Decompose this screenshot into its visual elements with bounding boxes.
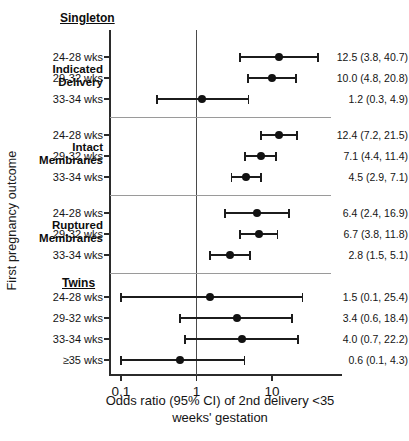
y-axis-category-label: 24-28 wks <box>53 291 103 303</box>
y-axis-tick <box>104 359 109 360</box>
odds-ratio-marker <box>226 251 234 259</box>
x-axis-line <box>109 374 342 376</box>
odds-ratio-marker <box>253 209 261 217</box>
group-header-line-2: Membranes <box>39 154 103 167</box>
odds-ratio-value-label: 6.7 (3.8, 11.8) <box>343 228 408 240</box>
y-axis-tick <box>104 134 109 135</box>
x-axis-tick <box>196 375 197 381</box>
ci-cap-upper <box>288 209 290 218</box>
ci-cap-lower <box>184 335 186 344</box>
section-header: Twins <box>62 276 95 290</box>
x-axis-tick <box>120 375 121 381</box>
odds-ratio-marker <box>275 53 283 61</box>
y-axis-tick <box>104 98 109 99</box>
y-axis-category-label: ≥35 wks <box>63 354 103 366</box>
odds-ratio-marker <box>268 74 276 82</box>
ci-cap-upper <box>302 293 304 302</box>
group-header-line-2: Delivery <box>53 76 103 89</box>
ci-cap-upper <box>260 173 262 182</box>
ci-cap-lower <box>247 74 249 83</box>
y-axis-tick <box>104 176 109 177</box>
reference-line <box>196 30 198 375</box>
y-axis-tick <box>104 155 109 156</box>
y-axis-tick <box>104 233 109 234</box>
group-header: IntactMembranes <box>39 141 103 166</box>
odds-ratio-marker <box>255 230 263 238</box>
ci-cap-lower <box>244 152 246 161</box>
odds-ratio-value-label: 12.5 (3.8, 40.7) <box>337 51 408 63</box>
y-axis-tick <box>104 56 109 57</box>
value-label-column: 12.5 (3.8, 40.7)10.0 (4.8, 20.8)1.2 (0.3… <box>342 30 409 375</box>
group-header-line-1: Ruptured <box>39 219 103 232</box>
group-separator <box>110 195 331 196</box>
odds-ratio-marker <box>198 95 206 103</box>
odds-ratio-value-label: 4.0 (0.7, 22.2) <box>343 333 408 345</box>
group-header-line-2: Membranes <box>39 232 103 245</box>
y-axis-tick <box>104 338 109 339</box>
group-header-line-1: Intact <box>39 141 103 154</box>
group-separator <box>110 117 331 118</box>
odds-ratio-marker <box>176 356 184 364</box>
ci-cap-lower <box>239 53 241 62</box>
odds-ratio-value-label: 12.4 (7.2, 21.5) <box>337 129 408 141</box>
group-header-line-1: Indicated <box>53 63 103 76</box>
y-axis-category-label: 24-28 wks <box>53 129 103 141</box>
plot-area: 0.1110 <box>109 30 342 375</box>
ci-cap-upper <box>244 356 246 365</box>
odds-ratio-marker <box>233 314 241 322</box>
odds-ratio-value-label: 2.8 (1.5, 5.1) <box>348 249 408 261</box>
ci-cap-lower <box>209 251 211 260</box>
ci-cap-lower <box>120 356 122 365</box>
x-axis-caption-line-1: Odds ratio (95% CI) of 2nd delivery <35 <box>60 392 380 409</box>
y-axis-tick <box>104 212 109 213</box>
ci-cap-upper <box>291 314 293 323</box>
forest-plot-figure: First pregnancy outcome 24-28 wks29-32 w… <box>0 0 409 441</box>
ci-cap-lower <box>260 131 262 140</box>
x-axis-caption-line-2: weeks' gestation <box>60 409 380 426</box>
ci-cap-upper <box>297 335 299 344</box>
group-header: IndicatedDelivery <box>53 63 103 88</box>
odds-ratio-value-label: 4.5 (2.9, 7.1) <box>348 171 408 183</box>
odds-ratio-value-label: 0.6 (0.1, 4.3) <box>348 354 408 366</box>
ci-cap-upper <box>296 131 298 140</box>
ci-cap-upper <box>248 95 250 104</box>
odds-ratio-value-label: 10.0 (4.8, 20.8) <box>337 72 408 84</box>
odds-ratio-value-label: 7.1 (4.4, 11.4) <box>343 150 408 162</box>
section-header: Singleton <box>60 11 115 25</box>
y-axis-category-label: 29-32 wks <box>53 312 103 324</box>
group-header: RupturedMembranes <box>39 219 103 244</box>
odds-ratio-marker <box>206 293 214 301</box>
ci-cap-upper <box>277 230 279 239</box>
ci-cap-lower <box>239 230 241 239</box>
y-axis-category-label: 33-34 wks <box>53 93 103 105</box>
group-separator <box>110 273 331 274</box>
odds-ratio-value-label: 1.2 (0.3, 4.9) <box>348 93 408 105</box>
ci-cap-upper <box>295 74 297 83</box>
row-label-column: 24-28 wks29-32 wks33-34 wks24-28 wks29-3… <box>0 30 103 375</box>
y-axis-category-label: 33-34 wks <box>53 171 103 183</box>
odds-ratio-marker <box>238 335 246 343</box>
y-axis-tick <box>104 317 109 318</box>
odds-ratio-value-label: 3.4 (0.6, 18.4) <box>343 312 408 324</box>
y-axis-tick <box>104 77 109 78</box>
y-axis-tick <box>104 296 109 297</box>
y-axis-line <box>109 30 111 375</box>
ci-cap-lower <box>224 209 226 218</box>
odds-ratio-marker <box>257 152 265 160</box>
ci-cap-lower <box>231 173 233 182</box>
y-axis-category-label: 33-34 wks <box>53 249 103 261</box>
odds-ratio-marker <box>242 173 250 181</box>
ci-cap-upper <box>249 251 251 260</box>
y-axis-category-label: 24-28 wks <box>53 51 103 63</box>
odds-ratio-value-label: 1.5 (0.1, 25.4) <box>343 291 408 303</box>
x-axis-tick <box>271 375 272 381</box>
odds-ratio-value-label: 6.4 (2.4, 16.9) <box>343 207 408 219</box>
ci-cap-upper <box>317 53 319 62</box>
ci-cap-lower <box>120 293 122 302</box>
ci-cap-upper <box>275 152 277 161</box>
y-axis-tick <box>104 254 109 255</box>
x-axis-caption: Odds ratio (95% CI) of 2nd delivery <35 … <box>60 392 380 426</box>
y-axis-category-label: 24-28 wks <box>53 207 103 219</box>
ci-cap-lower <box>179 314 181 323</box>
ci-cap-lower <box>156 95 158 104</box>
